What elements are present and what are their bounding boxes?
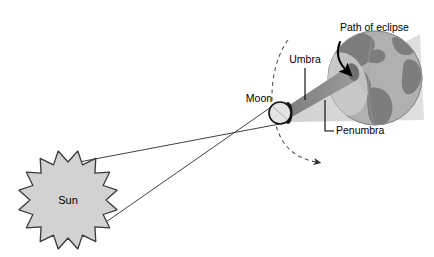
label-path-of-eclipse: Path of eclipse — [340, 21, 409, 33]
eclipse-diagram-canvas: Path of eclipse Umbra Penumbra Moon Sun — [0, 0, 434, 257]
label-umbra: Umbra — [289, 53, 321, 65]
eclipse-diagram: Path of eclipse Umbra Penumbra Moon Sun — [0, 0, 434, 257]
moon-body — [269, 102, 293, 124]
label-moon: Moon — [246, 92, 272, 104]
label-sun: Sun — [58, 194, 78, 206]
label-penumbra: Penumbra — [336, 124, 385, 136]
